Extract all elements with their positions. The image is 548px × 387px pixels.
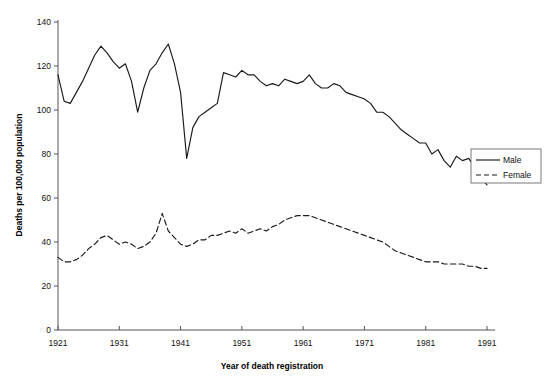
x-axis: 19211931194119511961197119811991 (49, 326, 497, 348)
y-axis-title: Deaths per 100,000 population (14, 114, 24, 237)
y-tick-label: 80 (42, 149, 52, 159)
y-tick-label: 0 (46, 325, 51, 335)
y-tick-label: 120 (37, 61, 51, 71)
x-tick-label: 1951 (232, 338, 251, 348)
y-axis: 020406080100120140 (37, 17, 58, 335)
chart-legend[interactable]: MaleFemale (471, 149, 541, 183)
y-tick-label: 60 (42, 193, 52, 203)
y-tick-label: 100 (37, 105, 51, 115)
legend-label-male[interactable]: Male (503, 155, 522, 165)
x-tick-label: 1921 (49, 338, 68, 348)
x-tick-label: 1981 (416, 338, 435, 348)
series-line-male (58, 44, 487, 185)
x-tick-label: 1931 (110, 338, 129, 348)
x-tick-label: 1961 (294, 338, 313, 348)
y-tick-label: 140 (37, 17, 51, 27)
x-axis-title: Year of death registration (221, 361, 324, 371)
series-line-female (58, 213, 487, 268)
legend-label-female[interactable]: Female (503, 170, 532, 180)
chart-container: 020406080100120140 192119311941195119611… (0, 0, 548, 387)
x-tick-label: 1971 (355, 338, 374, 348)
cropped-header-text (62, 0, 362, 6)
data-series-group (58, 44, 487, 268)
x-tick-label: 1991 (478, 338, 497, 348)
y-tick-label: 40 (42, 237, 52, 247)
mortality-line-chart: 020406080100120140 192119311941195119611… (0, 0, 548, 387)
y-tick-label: 20 (42, 281, 52, 291)
x-tick-label: 1941 (171, 338, 190, 348)
